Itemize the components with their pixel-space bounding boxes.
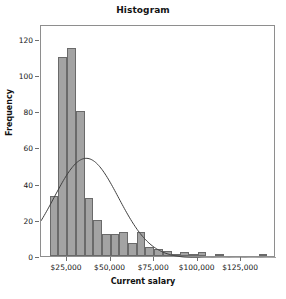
histogram-bar (111, 234, 120, 256)
x-tick-label: $125,000 (222, 263, 258, 272)
y-tick-label: 80 (23, 108, 33, 117)
x-axis-title: Current salary (0, 277, 286, 286)
histogram-bar (189, 254, 198, 256)
y-tick-mark (35, 148, 39, 149)
y-axis-title: Frequency (5, 78, 14, 148)
histogram-bar (50, 196, 59, 256)
x-tick-mark (197, 257, 198, 261)
y-tick-mark (35, 185, 39, 186)
histogram-bar (102, 234, 111, 256)
histogram-bar (76, 111, 85, 256)
x-tick-mark (66, 257, 67, 261)
histogram-bar (259, 254, 268, 256)
histogram-bar (154, 249, 163, 256)
y-axis: Frequency 020406080100120 (0, 0, 40, 299)
histogram-bar (163, 251, 172, 256)
plot-area (41, 26, 274, 256)
histogram-bar (180, 252, 189, 256)
x-tick-label: $100,000 (179, 263, 215, 272)
y-tick-label: 40 (23, 180, 33, 189)
y-tick-mark (35, 76, 39, 77)
histogram-bar (58, 57, 67, 256)
x-tick-label: $75,000 (138, 263, 169, 272)
histogram-bar (215, 254, 224, 256)
y-tick-mark (35, 112, 39, 113)
x-tick-label: $25,000 (51, 263, 82, 272)
x-tick-mark (240, 257, 241, 261)
histogram-bar (172, 254, 181, 256)
x-tick-mark (110, 257, 111, 261)
histogram-bar (128, 243, 137, 256)
plot-frame (40, 25, 275, 257)
histogram-bar (93, 220, 102, 256)
y-tick-mark (35, 40, 39, 41)
histogram-figure: Histogram Frequency 020406080100120 Curr… (0, 0, 286, 299)
histogram-bar (85, 198, 94, 256)
x-axis: Current salary $25,000$50,000$75,000$100… (0, 257, 286, 299)
y-tick-label: 120 (19, 35, 33, 44)
histogram-bar (198, 252, 207, 256)
y-tick-mark (35, 221, 39, 222)
y-tick-label: 100 (19, 71, 33, 80)
y-tick-label: 60 (23, 144, 33, 153)
x-tick-label: $50,000 (94, 263, 125, 272)
histogram-bar (145, 247, 154, 256)
histogram-bar (137, 232, 146, 256)
histogram-bar (119, 232, 128, 256)
y-tick-label: 20 (23, 216, 33, 225)
chart-title: Histogram (0, 5, 286, 15)
histogram-bar (67, 48, 76, 256)
x-tick-mark (153, 257, 154, 261)
